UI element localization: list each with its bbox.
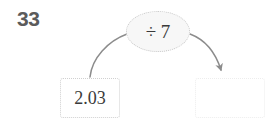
arrow-input-to-operation xyxy=(90,34,127,77)
arrow-operation-to-output xyxy=(190,34,221,70)
operation-node: ÷ 7 xyxy=(126,11,190,52)
output-answer-box[interactable] xyxy=(195,78,265,118)
input-value: 2.03 xyxy=(74,89,106,107)
operation-label: ÷ 7 xyxy=(146,22,171,41)
worksheet-problem: 33 ÷ 7 2.03 xyxy=(0,0,271,121)
input-value-box[interactable]: 2.03 xyxy=(60,78,120,118)
